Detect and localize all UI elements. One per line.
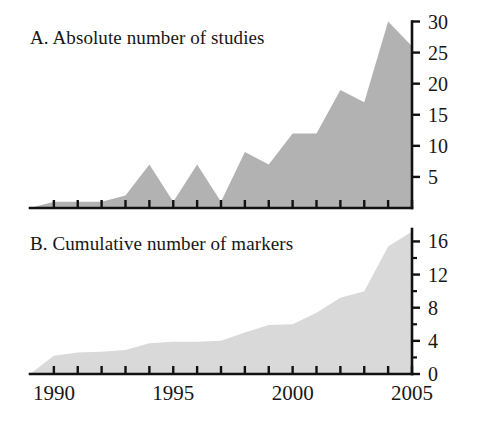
panel-b-y-tick-label: 8: [428, 297, 438, 319]
figure-root: A. Absolute number of studies 3025201510…: [0, 0, 481, 423]
panel-a-y-tick-label: 10: [428, 135, 448, 157]
panel-a-y-tick-label: 5: [428, 166, 438, 188]
x-axis-tick-label: 1990: [33, 381, 75, 405]
x-axis-tick-label: 2000: [272, 381, 314, 405]
x-axis-tick-label: 1995: [152, 381, 194, 405]
panel-a-y-tick-label: 25: [428, 42, 448, 64]
panel-b-y-tick-label: 12: [428, 264, 448, 286]
panel-a-y-tick-label: 20: [428, 73, 448, 95]
panel-b-y-tick-label: 16: [428, 230, 448, 252]
panel-a-title: A. Absolute number of studies: [30, 27, 265, 48]
x-axis-tick-label: 2005: [391, 381, 433, 405]
panel-a-y-tick-label: 15: [428, 104, 448, 126]
panel-a-y-tick-label: 30: [428, 11, 448, 33]
panel-b-title: B. Cumulative number of markers: [30, 233, 293, 254]
panel-b-y-tick-label: 4: [428, 330, 438, 352]
